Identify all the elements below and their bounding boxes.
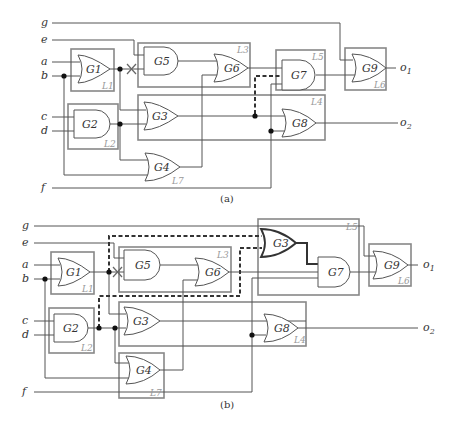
gate-label-g9: G9 (384, 259, 400, 272)
level-label-l6: L6 (373, 80, 386, 90)
gate-label-g3-duplicate: G3 (273, 237, 289, 250)
level-label-l1: L1 (101, 81, 114, 91)
gate-label-g3: G3 (133, 315, 149, 328)
output-label-o2: o2 (400, 116, 412, 131)
gate-label-g1: G1 (66, 266, 82, 279)
gate-label-g4: G4 (136, 364, 152, 377)
level-label-l2: L2 (103, 139, 116, 149)
junction-dot (268, 128, 273, 133)
input-label-g: g (22, 219, 29, 232)
level-label-l6: L6 (397, 276, 410, 286)
caption-b: (b) (220, 399, 234, 410)
gate-label-g1: G1 (86, 63, 102, 76)
gate-label-g8: G8 (274, 322, 290, 335)
wire-g (52, 23, 353, 60)
gate-label-g5: G5 (154, 55, 170, 68)
level-label-l3: L3 (236, 45, 249, 55)
input-label-d: d (41, 124, 48, 137)
level-label-l4: L4 (310, 97, 323, 107)
input-label-c: c (41, 110, 47, 123)
level-label-l5: L5 (311, 52, 324, 62)
junction-dot (117, 121, 122, 126)
input-label-c: c (22, 314, 28, 327)
input-label-b: b (22, 272, 29, 285)
gate-label-g7: G7 (328, 266, 344, 279)
figure-a: G1 G2 G3 G4 G5 G6 G7 G8 G9 L1 L2 L3 L4 L… (40, 16, 412, 204)
level-label-l3: L3 (216, 250, 229, 260)
figure-b: G1 G2 G3 G4 G5 G6 G3 G7 G8 G9 L1 L2 L3 L… (21, 219, 435, 410)
input-label-b: b (41, 69, 48, 82)
input-label-a: a (22, 258, 29, 271)
input-label-e: e (22, 236, 29, 249)
gate-label-g3: G3 (152, 110, 168, 123)
gate-label-g6: G6 (205, 266, 221, 279)
junction-dot (249, 332, 254, 337)
junction-dot (61, 73, 66, 78)
gate-label-g4: G4 (154, 161, 170, 174)
junction-dot (96, 325, 101, 330)
level-label-l5: L5 (345, 222, 358, 232)
junction-dot (42, 276, 47, 281)
caption-a: (a) (220, 193, 234, 204)
circuit-figure: G1 G2 G3 G4 G5 G6 G7 G8 G9 L1 L2 L3 L4 L… (0, 0, 461, 428)
junction-dot (252, 113, 257, 118)
input-label-f: f (40, 181, 47, 194)
level-label-l1: L1 (81, 284, 94, 294)
level-label-l4: L4 (293, 335, 306, 345)
dashed-path-b-2 (99, 248, 262, 328)
level-label-l7: L7 (149, 388, 162, 398)
input-label-e: e (41, 33, 48, 46)
gate-label-g6: G6 (224, 62, 240, 75)
wire-g1-g3 (120, 69, 146, 110)
wire-g4-g6 (180, 75, 222, 167)
gate-label-g8: G8 (292, 117, 308, 130)
output-label-o1: o1 (423, 258, 435, 273)
junction-dot (117, 66, 122, 71)
level-label-l2: L2 (80, 343, 93, 353)
junction-dot (106, 269, 111, 274)
output-label-o2: o2 (423, 321, 435, 336)
wire-g1-g3 (109, 272, 126, 314)
gate-label-g5: G5 (135, 259, 151, 272)
wire-e (34, 243, 126, 258)
gate-label-g9: G9 (362, 62, 378, 75)
output-label-o1: o1 (400, 61, 412, 76)
input-label-d: d (22, 328, 29, 341)
bold-path-g3-g7 (296, 243, 318, 264)
gate-label-g7: G7 (291, 69, 307, 82)
gate-label-g2: G2 (82, 118, 98, 131)
wire-e (52, 40, 144, 55)
gate-label-g2: G2 (63, 322, 79, 335)
level-label-l7: L7 (171, 176, 184, 186)
input-label-f: f (21, 385, 28, 398)
input-label-g: g (41, 16, 48, 29)
junction-dot (112, 325, 117, 330)
input-label-a: a (41, 55, 48, 68)
wire-g4-g6 (160, 280, 201, 370)
